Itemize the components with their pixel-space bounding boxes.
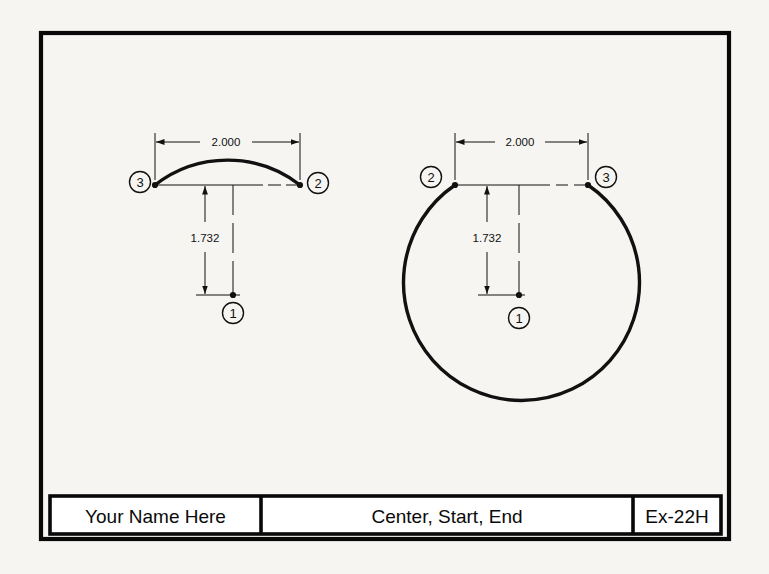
drawing-sheet: Your Name Here Center, Start, End Ex-22H…	[0, 0, 769, 574]
left-balloon-3: 3	[130, 172, 151, 193]
right-balloon-2-label: 2	[427, 170, 434, 185]
right-vertical-dim-text: 1.732	[473, 232, 502, 244]
right-point-start-dot	[452, 182, 458, 188]
right-balloon-3-label: 3	[602, 170, 609, 185]
left-balloon-1: 1	[223, 303, 244, 324]
left-balloon-2: 2	[308, 173, 329, 194]
right-balloon-3: 3	[596, 167, 617, 188]
left-vertical-dim-text: 1.732	[191, 232, 220, 244]
right-horizontal-dim-text: 2.000	[506, 136, 535, 148]
right-balloon-1-label: 1	[515, 311, 522, 326]
technical-drawing-canvas: Your Name Here Center, Start, End Ex-22H…	[0, 0, 769, 574]
right-point-end-dot	[585, 182, 591, 188]
left-balloon-1-label: 1	[229, 306, 236, 321]
left-point-start-dot	[152, 182, 158, 188]
paper-background	[0, 0, 769, 574]
title-block-description-field: Center, Start, End	[371, 506, 522, 527]
right-balloon-1: 1	[509, 308, 530, 329]
left-balloon-3-label: 3	[136, 175, 143, 190]
left-balloon-2-label: 2	[314, 176, 321, 191]
left-point-center-dot	[230, 292, 236, 298]
title-block-exercise-field: Ex-22H	[645, 506, 708, 527]
title-block: Your Name Here Center, Start, End Ex-22H	[50, 496, 721, 534]
left-horizontal-dim-text: 2.000	[212, 136, 241, 148]
right-point-center-dot	[516, 292, 522, 298]
title-block-name-field: Your Name Here	[85, 506, 226, 527]
right-balloon-2: 2	[421, 167, 442, 188]
left-point-end-dot	[297, 182, 303, 188]
